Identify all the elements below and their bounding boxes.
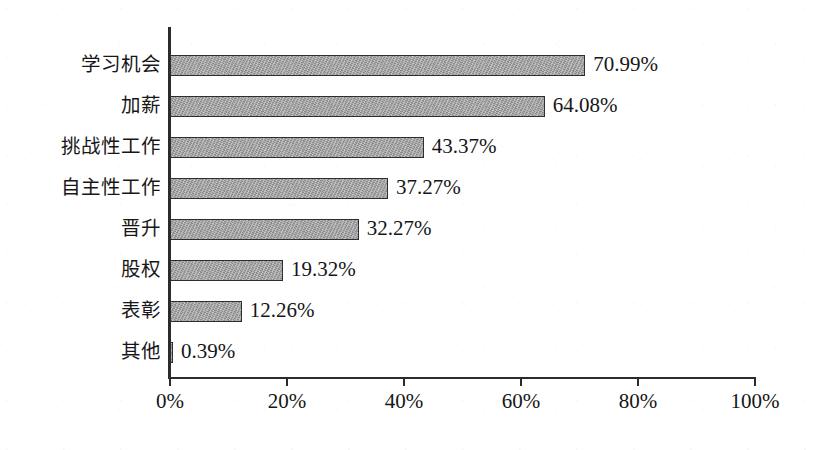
bar-value-label: 32.27%	[367, 216, 432, 240]
x-axis-tick-label: 80%	[619, 389, 658, 414]
x-axis-tick	[403, 377, 405, 386]
x-axis-tick	[637, 377, 639, 386]
x-axis-tick	[286, 377, 288, 386]
bar-chart: 学习机会70.99%加薪64.08%挑战性工作43.37%自主性工作37.27%…	[0, 0, 822, 450]
bar	[170, 137, 424, 158]
category-label: 表彰	[121, 300, 161, 322]
x-axis-tick-label: 100%	[731, 389, 780, 414]
category-label: 其他	[121, 341, 161, 363]
plot-area: 学习机会70.99%加薪64.08%挑战性工作43.37%自主性工作37.27%…	[170, 27, 755, 378]
bar-value-label: 0.39%	[181, 339, 235, 363]
bar	[170, 301, 242, 322]
category-label: 学习机会	[81, 54, 161, 76]
category-label: 加薪	[121, 95, 161, 117]
bar-value-label: 70.99%	[593, 52, 658, 76]
bar-value-label: 43.37%	[432, 134, 497, 158]
bar-value-label: 64.08%	[553, 93, 618, 117]
bar	[170, 342, 173, 363]
x-axis-tick	[169, 377, 171, 386]
x-axis-tick-label: 40%	[385, 389, 424, 414]
x-axis-tick-label: 0%	[156, 389, 184, 414]
bar-value-label: 19.32%	[291, 257, 356, 281]
x-axis-tick-label: 20%	[268, 389, 307, 414]
bar-value-label: 12.26%	[250, 298, 315, 322]
category-label: 自主性工作	[61, 177, 161, 199]
category-label: 股权	[121, 259, 161, 281]
bar	[170, 55, 585, 76]
bar	[170, 219, 359, 240]
category-label: 挑战性工作	[61, 136, 161, 158]
x-axis-tick-label: 60%	[502, 389, 541, 414]
category-label: 晋升	[121, 218, 161, 240]
x-axis-tick	[520, 377, 522, 386]
bar	[170, 260, 283, 281]
bar-value-label: 37.27%	[396, 175, 461, 199]
bar	[170, 96, 545, 117]
x-axis-tick	[754, 377, 756, 386]
bar	[170, 178, 388, 199]
